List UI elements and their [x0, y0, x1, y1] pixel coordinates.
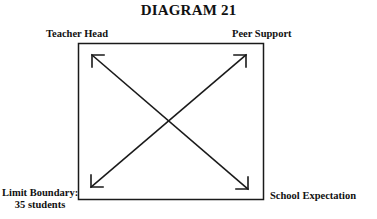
double-arrow-icon-diagonal-down	[92, 55, 248, 189]
diagram-canvas	[0, 0, 377, 219]
